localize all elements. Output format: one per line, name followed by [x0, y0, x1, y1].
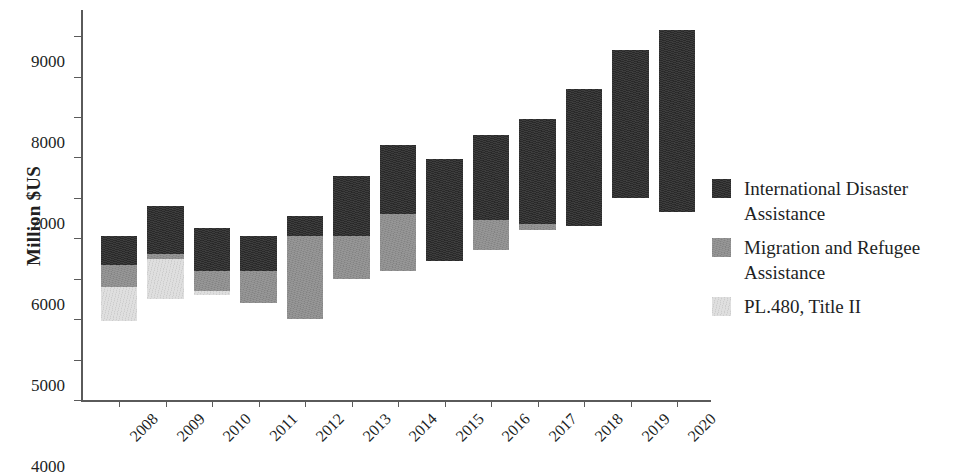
x-axis-tick: [166, 400, 167, 407]
bar-segment[interactable]: [612, 50, 648, 198]
legend-item-pl480-title-ii[interactable]: PL.480, Title II: [712, 294, 952, 319]
x-axis-tick: [398, 400, 399, 407]
y-axis-tick-label: 4000: [31, 457, 65, 476]
x-axis-tick-label: 2012: [312, 410, 347, 445]
x-axis-tick-label: 2018: [591, 410, 626, 445]
legend-item-international-disaster-assistance[interactable]: International Disaster Assistance: [712, 176, 952, 226]
bar-segment[interactable]: [333, 176, 369, 237]
ida-swatch-icon: [712, 179, 731, 198]
y-axis-tick: 7000: [74, 117, 81, 118]
y-axis-tick-label: 7000: [31, 214, 65, 234]
y-axis-tick: 5000: [74, 198, 81, 199]
bar-2012[interactable]: [287, 216, 323, 400]
bar-2013[interactable]: [333, 176, 369, 400]
x-axis-tick: [538, 400, 539, 407]
x-axis-tick-label: 2009: [173, 410, 208, 445]
x-axis-tick-label: 2014: [405, 410, 440, 445]
legend-label: International Disaster Assistance: [744, 176, 952, 226]
y-axis-tick: 0: [74, 400, 81, 401]
x-axis-tick: [259, 400, 260, 407]
bar-2010[interactable]: [194, 228, 230, 400]
y-axis-tick: 4000: [74, 238, 81, 239]
bar-segment[interactable]: [426, 159, 462, 260]
x-axis-tick-label: 2010: [219, 410, 254, 445]
plot-area: 0100020003000400050006000700080009000 20…: [81, 10, 711, 412]
legend-label: PL.480, Title II: [744, 294, 861, 319]
mra-swatch-icon: [712, 238, 731, 257]
bar-segment[interactable]: [519, 119, 555, 224]
x-axis-tick-label: 2011: [266, 410, 301, 445]
bar-2019[interactable]: [612, 50, 648, 400]
x-axis-tick-label: 2016: [498, 410, 533, 445]
x-axis-tick: [491, 400, 492, 407]
y-axis-tick: 8000: [74, 77, 81, 78]
bar-2014[interactable]: [380, 145, 416, 400]
pl480-swatch-icon: [712, 297, 731, 316]
y-axis-line: [81, 10, 83, 402]
bar-2018[interactable]: [566, 89, 602, 400]
y-axis-tick-label: 5000: [31, 376, 65, 396]
x-axis-tick: [305, 400, 306, 407]
bar-2015[interactable]: [426, 159, 462, 400]
x-axis-line: [81, 400, 711, 402]
bar-segment[interactable]: [147, 206, 183, 255]
bar-segment[interactable]: [380, 145, 416, 214]
x-axis-tick-label: 2019: [638, 410, 673, 445]
bar-segment[interactable]: [194, 228, 230, 270]
x-axis-tick: [445, 400, 446, 407]
y-axis-tick: 9000: [74, 36, 81, 37]
x-axis-tick-label: 2008: [126, 410, 161, 445]
x-axis-tick: [119, 400, 120, 407]
bar-2009[interactable]: [147, 206, 183, 400]
bar-segment[interactable]: [473, 135, 509, 220]
x-axis-tick-label: 2017: [545, 410, 580, 445]
bar-2011[interactable]: [240, 236, 276, 400]
x-axis-tick-label: 2013: [359, 410, 394, 445]
y-axis-tick-label: 6000: [31, 295, 65, 315]
legend-label: Migration and Refugee Assistance: [744, 235, 952, 285]
x-axis-tick: [352, 400, 353, 407]
bar-2020[interactable]: [659, 30, 695, 400]
y-axis-tick-label: 9000: [31, 52, 65, 72]
x-axis-tick-label: 2020: [684, 410, 719, 445]
y-axis-tick: 3000: [74, 279, 81, 280]
bar-2017[interactable]: [519, 119, 555, 400]
bar-segment[interactable]: [287, 216, 323, 236]
bar-segment[interactable]: [101, 236, 137, 264]
y-axis-tick-label: 8000: [31, 133, 65, 153]
y-axis-tick: 1000: [74, 360, 81, 361]
stacked-bar-chart: Million $US 0100020003000400050006000700…: [0, 0, 959, 476]
x-axis-tick: [584, 400, 585, 407]
bar-2016[interactable]: [473, 135, 509, 400]
bar-segment[interactable]: [240, 236, 276, 270]
bar-segment[interactable]: [566, 89, 602, 226]
y-axis-tick: 2000: [74, 319, 81, 320]
chart-legend: International Disaster Assistance Migrat…: [712, 176, 952, 328]
y-axis-tick: 6000: [74, 157, 81, 158]
x-axis-tick: [677, 400, 678, 407]
bar-segment[interactable]: [659, 30, 695, 212]
x-axis-tick: [631, 400, 632, 407]
x-axis-tick-label: 2015: [452, 410, 487, 445]
x-axis-tick: [212, 400, 213, 407]
legend-item-migration-and-refugee-assistance[interactable]: Migration and Refugee Assistance: [712, 235, 952, 285]
bar-2008[interactable]: [101, 236, 137, 400]
